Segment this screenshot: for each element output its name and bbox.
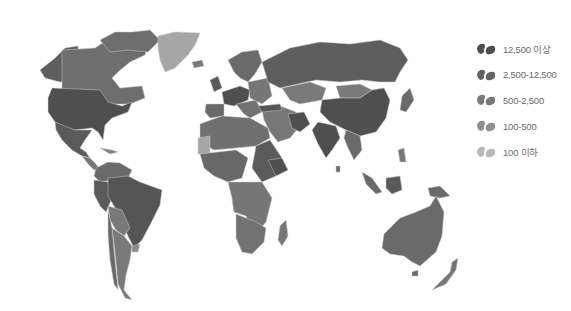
region-russia — [262, 40, 408, 88]
region-caribbean — [100, 148, 118, 154]
region-new-guinea — [428, 186, 450, 198]
region-indonesia — [386, 176, 402, 194]
region-iceland — [192, 60, 204, 68]
region-iberia — [205, 104, 224, 118]
legend-item-level2: 2,500-12,500 — [475, 62, 571, 88]
region-uk — [210, 76, 222, 92]
oceania — [382, 196, 458, 290]
region-sumatra — [362, 172, 382, 194]
south-america — [94, 162, 162, 300]
legend-label: 500-2,500 — [503, 95, 544, 106]
region-western-sahara — [198, 136, 210, 154]
region-sri-lanka — [336, 166, 340, 172]
region-tasmania — [412, 270, 418, 276]
asia — [258, 40, 450, 198]
legend-label: 2,500-12,500 — [503, 69, 557, 80]
map-swatch-icon — [475, 42, 497, 56]
map-legend: 12,500 이상 2,500-12,500 500-2,500 100-500… — [475, 36, 571, 165]
north-america — [40, 30, 200, 170]
map-swatch-icon — [475, 93, 497, 107]
legend-label: 100 이하 — [503, 145, 538, 159]
map-swatch-icon — [475, 145, 497, 159]
region-japan — [400, 88, 414, 112]
region-new-zealand — [432, 258, 458, 290]
region-australia — [382, 196, 444, 266]
legend-item-level3: 500-2,500 — [475, 88, 571, 114]
legend-item-level5: 100 이하 — [475, 139, 571, 165]
region-madagascar — [278, 220, 288, 246]
region-scandinavia — [228, 50, 262, 82]
legend-item-level4: 100-500 — [475, 113, 571, 139]
map-swatch-icon — [475, 68, 497, 82]
legend-label: 100-500 — [503, 121, 536, 132]
legend-label: 12,500 이상 — [503, 42, 551, 56]
region-india — [312, 122, 340, 158]
map-swatch-icon — [475, 119, 497, 133]
legend-item-level1: 12,500 이상 — [475, 36, 571, 62]
region-west-africa — [200, 150, 248, 182]
region-philippines — [398, 148, 406, 162]
region-canada-islands — [100, 30, 160, 52]
